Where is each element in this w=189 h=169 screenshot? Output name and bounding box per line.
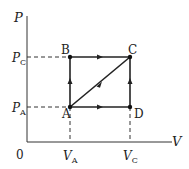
- tick-va: VA: [63, 149, 78, 165]
- label-b: B: [61, 43, 70, 57]
- tick-pa: PA: [11, 101, 26, 117]
- point-d: [128, 105, 132, 109]
- label-a: A: [61, 107, 71, 121]
- origin-label: 0: [16, 148, 24, 162]
- arrow-b-c-icon: [97, 55, 103, 60]
- arrow-a-b-icon: [68, 78, 73, 84]
- path-a-c: [70, 57, 130, 107]
- label-c: C: [128, 43, 137, 57]
- label-d: D: [134, 107, 144, 121]
- tick-pc: PC: [11, 51, 26, 67]
- arrow-a-d-icon: [97, 105, 103, 110]
- pv-diagram: B C A D P V 0 PC PA VA VC: [0, 0, 189, 169]
- y-axis-label: P: [13, 10, 23, 25]
- arrow-d-c-icon: [128, 78, 133, 84]
- tick-vc: VC: [123, 149, 138, 165]
- x-axis-label: V: [172, 134, 183, 149]
